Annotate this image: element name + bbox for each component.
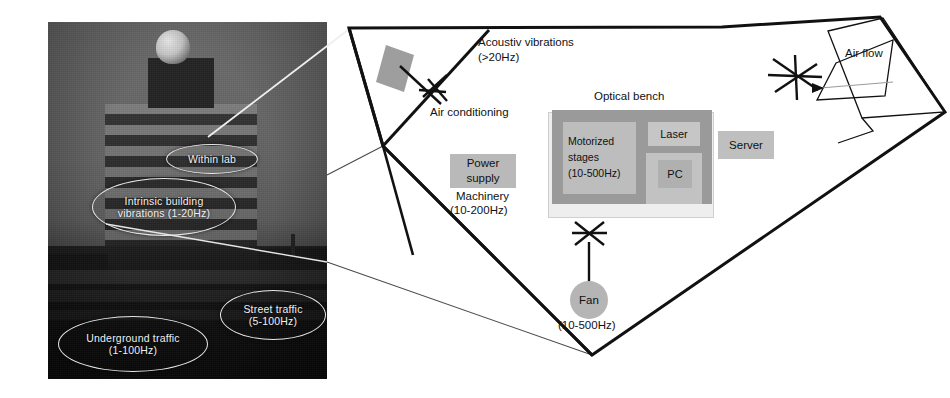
air-flow-label: Air flow <box>845 46 883 61</box>
machinery-label-line2: (10-200Hz) <box>450 203 508 218</box>
fan-frequency-label: (10-500Hz) <box>558 318 616 333</box>
server-label: Server <box>729 138 763 153</box>
acoustic-vibrations-label-line2: (>20Hz) <box>478 50 519 65</box>
air-conditioning-duct <box>376 45 414 92</box>
motorized-stages-label-line1: Motorized <box>568 134 636 150</box>
laser-box: Laser <box>648 122 700 146</box>
fan-label: Fan <box>579 294 599 306</box>
air-conditioning-label: Air conditioning <box>430 105 509 120</box>
fan-box: Fan <box>570 281 608 319</box>
motorized-stages-box: Motorized stages (10-500Hz) <box>563 122 636 194</box>
power-supply-label: Power supply <box>466 156 499 186</box>
power-supply-box: Power supply <box>450 154 516 188</box>
wall-left-upper <box>349 28 383 146</box>
motorized-stages-label-line2: stages <box>568 150 636 166</box>
acoustic-vibrations-label-line1: Acoustiv vibrations <box>478 35 574 50</box>
machinery-label-line1: Machinery <box>456 189 509 204</box>
pc-box: PC <box>658 160 692 188</box>
air-flow-fan-icon <box>768 55 822 100</box>
motorized-stages-label-line3: (10-500Hz) <box>568 166 636 182</box>
pc-label: PC <box>667 168 682 180</box>
air-flow-duct-neck <box>838 118 873 143</box>
laser-label: Laser <box>660 128 688 140</box>
server-box: Server <box>718 131 774 159</box>
air-flow-direction-line <box>820 82 893 88</box>
power-supply-label-line2: supply <box>466 172 499 184</box>
air-flow-outer-cone <box>828 18 945 118</box>
air-flow-arrow-head <box>812 83 824 93</box>
optical-bench-label: Optical bench <box>594 89 664 104</box>
power-supply-label-line1: Power <box>467 157 500 169</box>
fan-icon <box>572 222 607 283</box>
figure-root: Within lab Intrinsic building vibrations… <box>0 0 950 398</box>
